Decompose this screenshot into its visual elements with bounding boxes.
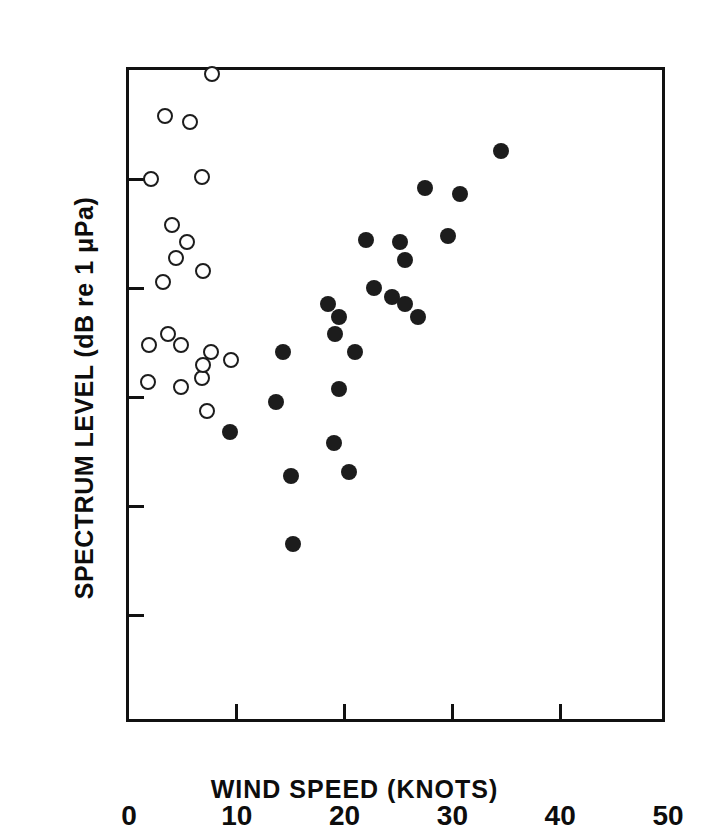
data-point	[397, 252, 413, 268]
data-point	[203, 344, 219, 360]
scatter-plot-figure: SPECTRUM LEVEL (dB re 1 μPa) WIND SPEED …	[0, 0, 709, 833]
data-point	[164, 217, 180, 233]
x-tick-label-20: 20	[315, 800, 375, 832]
data-point	[392, 234, 408, 250]
y-tick-60	[126, 505, 144, 508]
data-point	[223, 352, 239, 368]
data-point	[410, 309, 426, 325]
data-point	[141, 337, 157, 353]
data-point	[173, 337, 189, 353]
data-point	[155, 274, 171, 290]
data-point	[397, 296, 413, 312]
data-point	[327, 326, 343, 342]
data-point	[283, 468, 299, 484]
data-point	[222, 424, 238, 440]
data-point	[358, 232, 374, 248]
x-tick-label-0: 0	[99, 800, 159, 832]
x-tick-label-50: 50	[638, 800, 698, 832]
y-tick-70	[126, 287, 144, 290]
data-point	[331, 309, 347, 325]
y-tick-55	[126, 614, 144, 617]
data-point	[173, 379, 189, 395]
data-point	[157, 108, 173, 124]
data-point	[168, 250, 184, 266]
data-point	[194, 169, 210, 185]
data-point	[331, 381, 347, 397]
x-tick-label-10: 10	[207, 800, 267, 832]
data-point	[285, 536, 301, 552]
x-tick-label-30: 30	[422, 800, 482, 832]
data-point	[493, 143, 509, 159]
data-point	[366, 280, 382, 296]
x-tick-40	[559, 704, 562, 722]
x-tick-20	[343, 704, 346, 722]
x-tick-30	[451, 704, 454, 722]
data-point	[195, 263, 211, 279]
data-point	[326, 435, 342, 451]
data-point	[140, 374, 156, 390]
data-point	[268, 394, 284, 410]
data-point	[440, 228, 456, 244]
data-point	[417, 180, 433, 196]
data-point	[199, 403, 215, 419]
data-point	[452, 186, 468, 202]
data-point	[275, 344, 291, 360]
data-point	[179, 234, 195, 250]
y-tick-75	[126, 178, 144, 181]
y-tick-65	[126, 396, 144, 399]
data-point	[143, 171, 159, 187]
data-point	[204, 66, 220, 82]
plot-area: 50607080 01020304050	[126, 67, 665, 722]
y-axis-title: SPECTRUM LEVEL (dB re 1 μPa)	[64, 68, 104, 728]
x-tick-10	[235, 704, 238, 722]
data-point	[347, 344, 363, 360]
data-point	[341, 464, 357, 480]
data-point	[182, 114, 198, 130]
x-tick-label-40: 40	[530, 800, 590, 832]
